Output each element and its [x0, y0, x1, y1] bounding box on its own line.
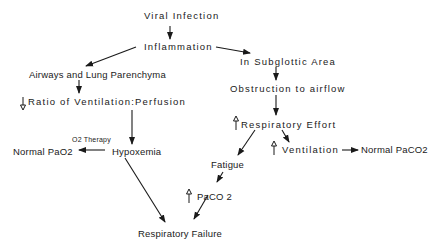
node-ventilation: Ventilation — [282, 144, 339, 155]
arrow-hypoxemia-to-resp-failure — [125, 158, 165, 222]
node-normal-paco2: Normal PaCO2 — [361, 144, 428, 155]
node-paco2: PaCO 2 — [197, 191, 232, 202]
arrow-inflammation-to-airways — [86, 47, 136, 66]
arrow-effort-to-ventilation — [282, 130, 289, 142]
node-airways: Airways and Lung Parenchyma — [29, 69, 166, 80]
increase-arrow-icon-effort — [234, 116, 239, 130]
arrow-fatigue-to-paco2 — [217, 172, 223, 182]
node-fatigue: Fatigue — [211, 159, 244, 170]
node-subglottic: In Subglottic Area — [240, 56, 336, 67]
node-normal-pao2: Normal PaO2 — [13, 146, 73, 157]
arrows-layer — [0, 0, 433, 249]
node-resp-failure: Respiratory Failure — [138, 228, 222, 239]
node-obstruction: Obstruction to airflow — [230, 83, 346, 94]
node-resp-effort: Respiratory Effort — [241, 119, 336, 130]
node-ratio: Ratio of Ventilation:Perfusion — [28, 96, 186, 107]
increase-arrow-icon-ventilation — [272, 141, 277, 155]
arrow-effort-to-fatigue — [238, 130, 255, 155]
decrease-arrow-icon-ratio — [21, 97, 26, 110]
node-hypoxemia: Hypoxemia — [112, 146, 161, 157]
node-inflammation: Inflammation — [144, 41, 213, 52]
arrow-inflammation-to-subglottic — [216, 47, 250, 53]
node-viral-infection: Viral Infection — [144, 10, 219, 21]
label-o2-therapy: O2 Therapy — [72, 134, 111, 145]
increase-arrow-icon-paco2 — [187, 189, 192, 203]
